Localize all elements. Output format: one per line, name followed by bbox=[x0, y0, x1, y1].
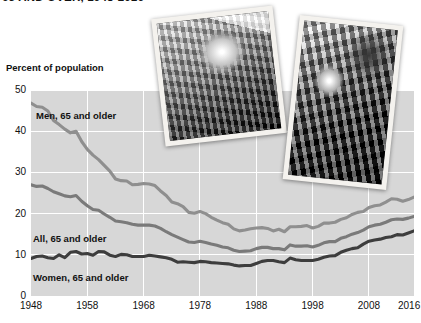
series-label-all: All, 65 and older bbox=[33, 233, 106, 244]
x-tick-label: 1958 bbox=[76, 300, 98, 311]
y-tick-label: 40 bbox=[4, 125, 26, 136]
y-tick-label: 20 bbox=[4, 208, 26, 219]
x-tick-label: 2008 bbox=[358, 300, 380, 311]
y-tick-label: 10 bbox=[4, 249, 26, 260]
x-tick-label: 1998 bbox=[301, 300, 323, 311]
x-tick-label: 1968 bbox=[133, 300, 155, 311]
older-man-at-machine-photo bbox=[283, 15, 404, 190]
y-tick-label: 30 bbox=[4, 166, 26, 177]
x-tick-label: 1978 bbox=[189, 300, 211, 311]
y-tick-label: 50 bbox=[4, 84, 26, 95]
series-label-women: Women, 65 and older bbox=[33, 272, 128, 283]
series-label-men: Men, 65 and older bbox=[36, 110, 116, 121]
x-tick-label: 1988 bbox=[245, 300, 267, 311]
chart-title: 65 AND OVER, 1948-2016 bbox=[2, 0, 144, 3]
photo2-image bbox=[288, 21, 398, 185]
x-tick-label: 2016 bbox=[398, 300, 420, 311]
older-woman-smiling-photo bbox=[151, 6, 287, 147]
photo1-image bbox=[157, 11, 282, 141]
y-axis-title: Percent of population bbox=[6, 62, 104, 73]
x-tick-label: 1948 bbox=[20, 300, 42, 311]
